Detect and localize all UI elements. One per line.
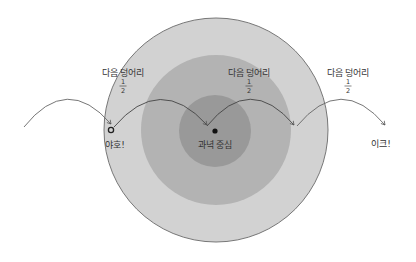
chunk-label-text: 다음 덩어리 [102, 68, 145, 78]
fraction-numerator: 1 [346, 78, 350, 86]
start-point-label: 야호! [105, 140, 125, 150]
fraction-denominator: 2 [346, 87, 350, 95]
fraction-denominator: 2 [247, 87, 251, 95]
bullseye-center-label: 과녁 중심 [198, 140, 233, 150]
chunk-label-text: 다음 덩어리 [228, 68, 271, 78]
target-halving-diagram: 다음 덩어리 1 2 다음 덩어리 1 2 다음 덩어리 1 2 야호! 과녁 … [0, 0, 416, 262]
chunk-label-3: 다음 덩어리 1 2 [327, 68, 370, 95]
bullseye-center-dot [212, 128, 217, 133]
jump-arc-1 [24, 99, 111, 127]
fraction-numerator: 1 [121, 78, 125, 86]
end-point-label: 이크! [371, 139, 391, 149]
fraction-numerator: 1 [247, 78, 251, 86]
chunk-label-text: 다음 덩어리 [327, 68, 370, 78]
fraction-denominator: 2 [121, 87, 125, 95]
